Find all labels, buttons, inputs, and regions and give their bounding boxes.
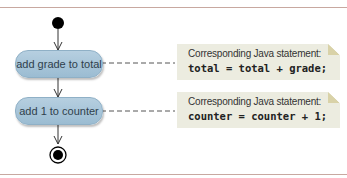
action-label: add grade to total <box>16 58 102 70</box>
note-total-statement: Corresponding Java statement: total = to… <box>177 44 340 80</box>
note-code: counter = counter + 1; <box>188 110 327 122</box>
action-add-1-to-counter: add 1 to counter <box>15 97 103 125</box>
action-label: add 1 to counter <box>19 105 99 117</box>
note-label: Corresponding Java statement: <box>188 48 321 59</box>
note-label: Corresponding Java statement: <box>188 96 321 107</box>
bottom-rule <box>0 174 347 175</box>
initial-node-icon <box>52 17 64 29</box>
action-add-grade-to-total: add grade to total <box>15 50 103 78</box>
flow-connectors <box>0 0 347 178</box>
note-counter-statement: Corresponding Java statement: counter = … <box>177 92 340 128</box>
note-code: total = total + grade; <box>188 62 327 74</box>
